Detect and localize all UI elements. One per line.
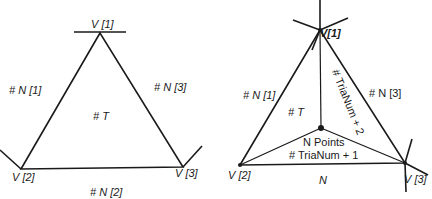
left-neighbor-1-label: # N [1] — [9, 85, 41, 96]
left-vertex-2-label: V [2] — [12, 172, 35, 183]
right-vertex-3-label: V [3] — [404, 174, 427, 185]
left-triangle-label: # T — [93, 111, 109, 122]
right-neighbor-3-label: # N [3] — [369, 88, 401, 99]
right-neighbor-1-label: # N [1] — [243, 90, 275, 101]
center-point — [318, 125, 324, 131]
center-label-trianum-1: # TriaNum + 1 — [289, 150, 358, 161]
diagram-canvas — [0, 0, 432, 199]
left-triangle — [0, 32, 202, 169]
right-neighbor-n-label: N — [319, 175, 327, 186]
right-vertex-1-label: V[1] — [320, 28, 341, 39]
right-vertex-2-label: V [2] — [228, 170, 251, 181]
left-vertex-3-label: V [3] — [175, 168, 198, 179]
center-label-points: N Points — [303, 137, 345, 148]
left-neighbor-2-label: # N [2] — [90, 187, 122, 198]
right-triangle-label: # T — [288, 107, 304, 118]
left-vertex-1-label: V [1] — [91, 19, 114, 30]
left-neighbor-3-label: # N [3] — [154, 82, 186, 93]
